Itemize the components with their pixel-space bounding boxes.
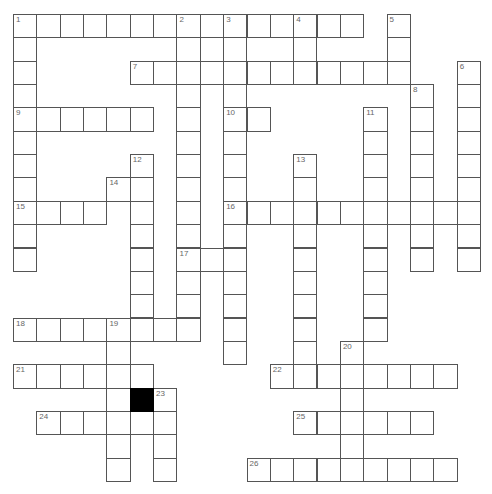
grid-cell[interactable]: 17 (176, 248, 200, 272)
grid-cell[interactable] (293, 271, 317, 295)
grid-cell[interactable] (317, 458, 341, 482)
grid-cell[interactable] (130, 271, 154, 295)
grid-cell[interactable] (270, 14, 294, 38)
grid-cell[interactable] (247, 61, 271, 85)
grid-cell[interactable] (293, 364, 317, 388)
grid-cell[interactable] (340, 201, 364, 225)
grid-cell[interactable] (223, 271, 247, 295)
grid-cell[interactable] (317, 61, 341, 85)
grid-cell[interactable] (293, 294, 317, 318)
grid-cell[interactable] (176, 201, 200, 225)
grid-cell[interactable] (293, 318, 317, 342)
grid-cell[interactable] (13, 37, 37, 61)
grid-cell[interactable]: 1 (13, 14, 37, 38)
grid-cell[interactable]: 14 (106, 177, 130, 201)
grid-cell[interactable] (223, 318, 247, 342)
grid-cell[interactable]: 3 (223, 14, 247, 38)
grid-cell[interactable] (457, 107, 481, 131)
grid-cell[interactable] (130, 224, 154, 248)
grid-cell[interactable] (106, 107, 130, 131)
grid-cell[interactable] (83, 411, 107, 435)
grid-cell[interactable] (223, 154, 247, 178)
grid-cell[interactable] (13, 154, 37, 178)
grid-cell[interactable] (293, 341, 317, 365)
grid-cell[interactable] (457, 248, 481, 272)
grid-cell[interactable] (83, 107, 107, 131)
grid-cell[interactable] (363, 271, 387, 295)
grid-cell[interactable] (106, 341, 130, 365)
grid-cell[interactable] (223, 248, 247, 272)
grid-cell[interactable]: 4 (293, 14, 317, 38)
grid-cell[interactable] (340, 411, 364, 435)
grid-cell[interactable] (130, 107, 154, 131)
grid-cell[interactable]: 26 (247, 458, 271, 482)
grid-cell[interactable] (130, 177, 154, 201)
grid-cell[interactable] (270, 61, 294, 85)
grid-cell[interactable] (13, 84, 37, 108)
grid-cell[interactable] (387, 61, 411, 85)
grid-cell[interactable] (130, 411, 154, 435)
grid-cell[interactable]: 10 (223, 107, 247, 131)
grid-cell[interactable] (363, 201, 387, 225)
grid-cell[interactable] (36, 318, 60, 342)
grid-cell[interactable] (247, 107, 271, 131)
grid-cell[interactable] (340, 61, 364, 85)
grid-cell[interactable] (200, 248, 224, 272)
grid-cell[interactable] (106, 458, 130, 482)
grid-cell[interactable] (153, 61, 177, 85)
grid-cell[interactable] (410, 201, 434, 225)
grid-cell[interactable] (293, 177, 317, 201)
grid-cell[interactable]: 5 (387, 14, 411, 38)
grid-cell[interactable] (223, 177, 247, 201)
grid-cell[interactable] (363, 131, 387, 155)
grid-cell[interactable]: 12 (130, 154, 154, 178)
grid-cell[interactable] (176, 154, 200, 178)
grid-cell[interactable] (130, 294, 154, 318)
grid-cell[interactable]: 7 (130, 61, 154, 85)
grid-cell[interactable] (247, 14, 271, 38)
grid-cell[interactable] (153, 434, 177, 458)
grid-cell[interactable] (130, 248, 154, 272)
grid-cell[interactable] (223, 61, 247, 85)
grid-cell[interactable] (457, 177, 481, 201)
grid-cell[interactable] (13, 61, 37, 85)
grid-cell[interactable] (153, 411, 177, 435)
grid-cell[interactable]: 11 (363, 107, 387, 131)
grid-cell[interactable] (433, 364, 457, 388)
grid-cell[interactable] (293, 37, 317, 61)
grid-cell[interactable] (363, 154, 387, 178)
grid-cell[interactable] (410, 364, 434, 388)
grid-cell[interactable] (410, 458, 434, 482)
grid-cell[interactable] (36, 364, 60, 388)
grid-cell[interactable] (223, 294, 247, 318)
grid-cell[interactable]: 15 (13, 201, 37, 225)
grid-cell[interactable] (36, 14, 60, 38)
grid-cell[interactable] (363, 318, 387, 342)
grid-cell[interactable] (106, 14, 130, 38)
grid-cell[interactable]: 21 (13, 364, 37, 388)
grid-cell[interactable] (410, 131, 434, 155)
grid-cell[interactable] (83, 364, 107, 388)
grid-cell[interactable] (223, 84, 247, 108)
grid-cell[interactable] (410, 177, 434, 201)
grid-cell[interactable] (130, 318, 154, 342)
grid-cell[interactable]: 13 (293, 154, 317, 178)
grid-cell[interactable] (176, 61, 200, 85)
grid-cell[interactable] (106, 434, 130, 458)
grid-cell[interactable] (387, 458, 411, 482)
grid-cell[interactable] (247, 201, 271, 225)
grid-cell[interactable] (153, 458, 177, 482)
grid-cell[interactable]: 2 (176, 14, 200, 38)
grid-cell[interactable] (130, 201, 154, 225)
grid-cell[interactable] (36, 107, 60, 131)
grid-cell[interactable]: 6 (457, 61, 481, 85)
grid-cell[interactable] (130, 364, 154, 388)
grid-cell[interactable]: 25 (293, 411, 317, 435)
grid-cell[interactable] (176, 224, 200, 248)
grid-cell[interactable] (176, 271, 200, 295)
grid-cell[interactable] (317, 14, 341, 38)
grid-cell[interactable] (410, 107, 434, 131)
grid-cell[interactable]: 20 (340, 341, 364, 365)
grid-cell[interactable] (387, 201, 411, 225)
grid-cell[interactable] (223, 224, 247, 248)
